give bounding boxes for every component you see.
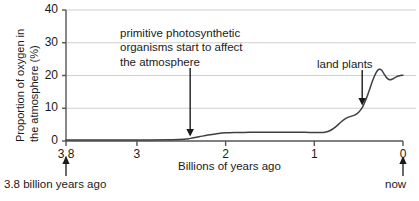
y-axis-title-line-2: the atmosphere (%) [28,45,40,142]
x-tick-label: 0 [388,147,418,161]
annotation-primitive-photosynthetic: primitive photosynthetic organisms start… [120,26,243,69]
y-tick-label: 20 [32,68,58,82]
x-tick-label: 2 [211,147,241,161]
annotation-line: organisms start to affect [120,40,243,54]
x-axis-ticks [66,141,403,146]
y-tick-label: 0 [32,133,58,147]
x-tick-label: 3.8 [51,147,81,161]
caption-right-now: now [385,178,406,192]
x-tick-label: 3 [122,147,152,161]
annotation-line: primitive photosynthetic [120,26,243,40]
annotation-line: land plants [317,57,373,71]
y-axis-title-line-1: Proportion of oxygen in [14,29,26,142]
x-tick-label: 1 [299,147,329,161]
y-tick-label: 30 [32,35,58,49]
y-tick-label: 10 [32,100,58,114]
oxygen-curve [66,69,403,140]
y-tick-label: 40 [32,2,58,16]
x-axis-title: Billions of years ago [178,160,281,174]
arrow-primitive-photosynthetic-head [186,129,194,137]
annotation-line: the atmosphere [120,55,243,69]
oxygen-chart: Proportion of oxygen in the atmosphere (… [0,0,419,201]
caption-left-3-8-billion-years-ago: 3.8 billion years ago [4,178,106,192]
annotation-arrows [186,68,366,136]
annotation-land-plants: land plants [317,57,373,71]
